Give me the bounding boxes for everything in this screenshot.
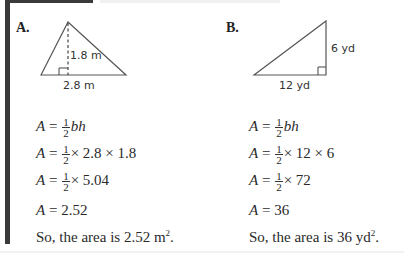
equation-step: A = 12bh — [36, 117, 86, 138]
problem-a-label: A. — [16, 20, 30, 36]
fraction: 12 — [275, 144, 283, 165]
triangle-b-figure — [250, 18, 330, 80]
equation-step: A = 12bh — [249, 117, 299, 138]
fraction: 12 — [62, 171, 70, 192]
equation-step: A = 12× 72 — [249, 171, 311, 192]
fraction: 12 — [275, 117, 283, 138]
bottom-divider — [0, 251, 404, 253]
equation-step: A = 12× 12 × 6 — [249, 144, 334, 165]
base-label-a: 2.8 m — [63, 79, 95, 92]
conclusion-b: So, the area is 36 yd2. — [249, 228, 379, 246]
equation-step: A = 2.52 — [36, 201, 87, 219]
top-border-bar — [5, 0, 93, 3]
equation-step: A = 12× 2.8 × 1.8 — [36, 144, 136, 165]
height-label-a: 1.8 m — [70, 49, 102, 62]
fraction: 12 — [62, 144, 70, 165]
clipped-header-text — [100, 0, 280, 3]
base-label-b: 12 yd — [279, 79, 310, 92]
equation-step: A = 36 — [249, 201, 289, 219]
left-border-bar — [5, 0, 10, 244]
fraction: 12 — [275, 171, 283, 192]
height-label-b: 6 yd — [331, 42, 355, 55]
conclusion-a: So, the area is 2.52 m2. — [36, 228, 174, 246]
fraction: 12 — [62, 117, 70, 138]
problem-b-label: B. — [226, 20, 239, 36]
equation-step: A = 12× 5.04 — [36, 171, 109, 192]
